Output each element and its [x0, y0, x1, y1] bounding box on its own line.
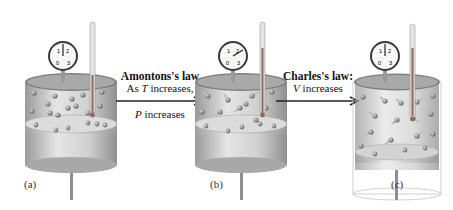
panel-c: 1 2 0 3 (c) [345, 0, 453, 210]
panel-label-b: (b) [210, 178, 223, 190]
pressure-gauge-icon: 1 2 0 3 [370, 41, 400, 71]
svg-text:3: 3 [67, 60, 70, 66]
thermometer-icon [90, 22, 95, 117]
panel-label-a: (a) [24, 178, 36, 190]
panel-label-c: (c) [391, 178, 403, 190]
svg-text:1: 1 [227, 48, 230, 54]
svg-text:1: 1 [57, 48, 60, 54]
thermometer-icon [260, 22, 265, 117]
pressure-gauge-icon: 1 2 0 3 [218, 41, 248, 71]
svg-text:3: 3 [389, 60, 392, 66]
pressure-gauge-icon: 1 2 0 3 [48, 41, 78, 71]
svg-text:0: 0 [378, 60, 381, 66]
thermometer-icon [410, 24, 415, 121]
svg-text:2: 2 [66, 48, 69, 54]
svg-text:0: 0 [226, 60, 229, 66]
svg-text:2: 2 [388, 48, 391, 54]
svg-text:3: 3 [237, 60, 240, 66]
svg-text:1: 1 [379, 48, 382, 54]
svg-text:0: 0 [56, 60, 59, 66]
